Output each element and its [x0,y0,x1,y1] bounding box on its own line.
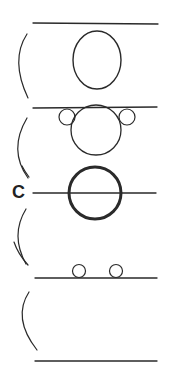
panel-3-bracket [18,209,26,264]
panel-2-small-circle-right [119,109,135,125]
panel-1-line [33,23,158,24]
panel-1-oval [73,31,121,89]
panel-2-bracket [18,118,28,178]
panel-4-small-circle-left [73,265,86,278]
panel-2-large-circle [71,105,121,155]
diagram-label-c: C [12,182,25,203]
panel-1-bracket [19,34,28,98]
diagram-canvas [0,0,174,381]
panel-2-small-circle-left [59,109,75,125]
panel-4-small-circle-right [110,265,123,278]
panel-5-bracket [22,292,37,350]
panel-2-line [33,107,157,108]
